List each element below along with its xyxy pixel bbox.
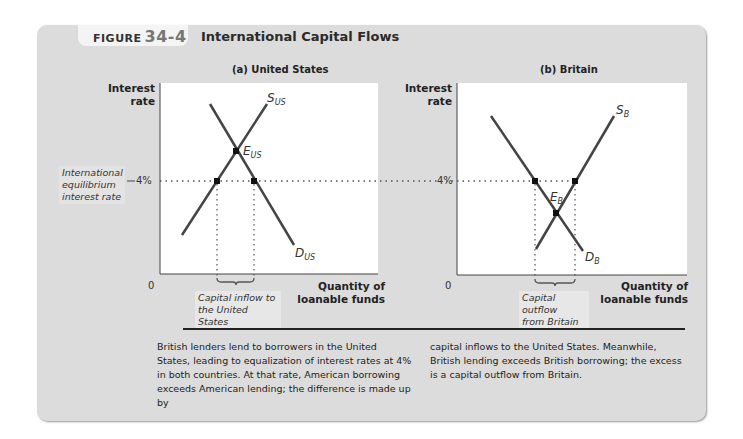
equilibrium-point-us	[233, 148, 239, 154]
caption-column-1: British lenders lend to borrowers in the…	[157, 340, 412, 410]
caption-rule	[183, 328, 685, 330]
britain-demand-at-world-rate	[532, 178, 538, 184]
capital-outflow-brace	[535, 279, 575, 286]
panel-a-plot-area	[160, 83, 378, 274]
equilibrium-point-britain	[553, 210, 559, 216]
us-demand-at-world-rate	[251, 178, 257, 184]
demand-label-us: DUS	[295, 246, 315, 262]
equilibrium-label-us: EUS	[243, 144, 262, 160]
supply-label-britain: SB	[616, 103, 629, 119]
caption-column-2: capital inflows to the United States. Me…	[430, 340, 685, 382]
britain-supply-at-world-rate	[572, 178, 578, 184]
capital-inflow-brace	[217, 278, 254, 285]
us-supply-at-world-rate	[214, 178, 220, 184]
supply-label-us: SUS	[267, 91, 286, 107]
equilibrium-label-britain: EB	[550, 190, 563, 206]
demand-label-britain: DB	[585, 250, 600, 266]
